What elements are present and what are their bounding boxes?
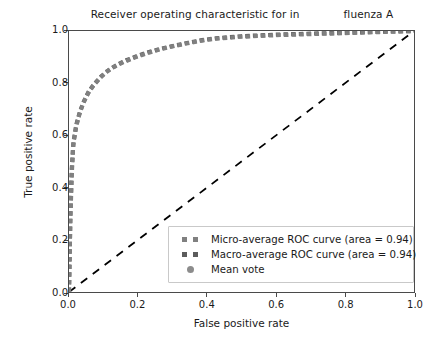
legend-circle-marker-icon <box>187 266 194 273</box>
legend-dash-marker-icon <box>182 237 187 242</box>
y-tick-label-wrap: 0.0 <box>0 288 68 298</box>
y-tick-label-wrap: 0.8 <box>0 78 68 88</box>
y-tick-label: 0.0 <box>42 288 68 298</box>
x-tick-label: 0.6 <box>256 299 296 311</box>
legend-item-label: Mean vote <box>205 264 265 275</box>
roc-curve-figure: Receiver operating characteristic for in… <box>0 0 439 340</box>
legend-item[interactable]: Mean vote <box>175 262 406 277</box>
legend-marker <box>175 266 205 273</box>
x-tick-label: 0.0 <box>48 299 88 311</box>
y-tick-label: 0.2 <box>42 235 68 245</box>
chart-title: Receiver operating characteristic for in… <box>68 5 416 23</box>
legend-item-label: Macro-average ROC curve (area = 0.94) <box>205 249 416 260</box>
y-tick-label-wrap: 1.0 <box>0 25 68 35</box>
y-tick-label: 1.0 <box>42 25 68 35</box>
x-tick-mark <box>345 293 346 297</box>
y-tick-label: 0.4 <box>42 183 68 193</box>
x-tick-mark <box>137 293 138 297</box>
chart-title-part-2: fluenza A <box>344 8 394 20</box>
legend-item[interactable]: Macro-average ROC curve (area = 0.94) <box>175 247 406 262</box>
legend-dash-marker-icon <box>182 252 187 257</box>
legend-marker <box>175 252 205 257</box>
x-tick-mark <box>68 293 69 297</box>
x-tick-label: 0.8 <box>326 299 366 311</box>
legend-dash-marker-icon <box>193 252 198 257</box>
legend-marker <box>175 237 205 242</box>
chart-legend: Micro-average ROC curve (area = 0.94)Mac… <box>168 226 414 283</box>
y-tick-label: 0.8 <box>42 78 68 88</box>
x-tick-label: 0.4 <box>187 299 227 311</box>
y-tick-label-wrap: 0.6 <box>0 130 68 140</box>
x-tick-label: 0.2 <box>117 299 157 311</box>
x-tick-mark <box>206 293 207 297</box>
y-axis-label: True positive rate <box>22 72 34 232</box>
legend-item[interactable]: Micro-average ROC curve (area = 0.94) <box>175 232 406 247</box>
x-tick-mark <box>276 293 277 297</box>
x-tick-label: 1.0 <box>395 299 435 311</box>
x-axis-label: False positive rate <box>68 317 415 329</box>
x-tick-mark <box>415 293 416 297</box>
y-tick-label-wrap: 0.2 <box>0 235 68 245</box>
legend-item-label: Micro-average ROC curve (area = 0.94) <box>205 234 413 245</box>
chart-title-part-1: Receiver operating characteristic for in <box>91 8 300 20</box>
y-tick-label-wrap: 0.4 <box>0 183 68 193</box>
y-tick-label: 0.6 <box>42 130 68 140</box>
legend-dash-marker-icon <box>193 237 198 242</box>
